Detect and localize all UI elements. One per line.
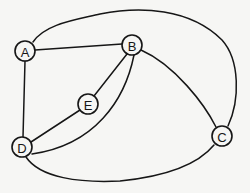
svg-text:B: B xyxy=(128,39,137,54)
edge-d-c xyxy=(26,145,214,181)
svg-text:E: E xyxy=(84,98,93,113)
svg-text:D: D xyxy=(17,141,26,156)
node-c: C xyxy=(212,126,232,146)
node-b: B xyxy=(122,35,142,55)
edge-b-c xyxy=(141,50,216,127)
svg-text:C: C xyxy=(217,130,226,145)
node-a: A xyxy=(15,41,35,61)
edge-a-b xyxy=(35,44,122,50)
node-e: E xyxy=(78,94,98,114)
graph-diagram: A B C D E xyxy=(0,0,250,193)
edge-a-d xyxy=(23,61,25,137)
node-d: D xyxy=(12,137,32,157)
edge-e-d xyxy=(31,110,80,142)
svg-text:A: A xyxy=(21,45,30,60)
